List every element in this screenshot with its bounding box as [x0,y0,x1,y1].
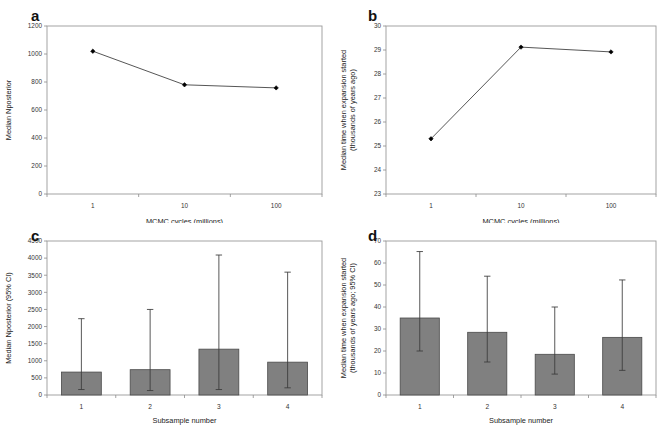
x-category-label: 4 [620,403,624,410]
y-tick-label: 24 [374,166,382,173]
x-category-label: 2 [485,403,489,410]
y-tick-label: 500 [31,374,42,381]
panel-b-plot: 2324252627282930110100MCMC cycles (milli… [334,0,668,223]
y-tick-label: 28 [374,70,382,77]
x-axis-title: Subsample number [152,416,217,425]
data-point-marker [182,83,186,87]
y-tick-label: 400 [31,134,42,141]
x-category-label: 2 [148,403,152,410]
y-tick-label: 2000 [28,323,43,330]
x-category-label: 3 [217,403,221,410]
x-category-label: 3 [553,403,557,410]
y-axis-title: Median time when expansion started [339,50,348,170]
y-tick-label: 25 [374,142,382,149]
y-tick-label: 1500 [28,340,43,347]
y-tick-label: 60 [374,259,382,266]
plot-frame [47,26,322,194]
y-axis-title-line2: (thousands of years ago; 95% CI) [348,263,357,373]
panel-a-plot: 020040060080010001200110100MCMC cycles (… [0,0,334,223]
panel-c: c 05001000150020002500300035004000450012… [0,223,334,446]
x-tick-label: 100 [606,202,617,209]
data-point-marker [609,50,613,54]
y-tick-label: 20 [374,347,382,354]
y-tick-label: 40 [374,303,382,310]
panel-d-plot: 0102030405060701234Subsample numberMedia… [334,223,668,446]
y-tick-label: 800 [31,78,42,85]
panel-a-letter: a [31,8,39,23]
y-tick-label: 1000 [28,357,43,364]
panel-c-plot: 0500100015002000250030003500400045001234… [0,223,334,446]
x-tick-label: 1 [91,202,95,209]
x-category-label: 1 [80,403,84,410]
x-tick-label: 1 [429,202,433,209]
data-point-marker [274,86,278,90]
data-series-line [431,47,611,139]
x-category-label: 4 [286,403,290,410]
y-tick-label: 1000 [28,50,43,57]
panel-b: b 2324252627282930110100MCMC cycles (mil… [334,0,668,223]
data-point-marker [91,49,95,53]
y-tick-label: 4000 [28,254,43,261]
panel-d: d 0102030405060701234Subsample numberMed… [334,223,668,446]
y-tick-label: 3500 [28,272,43,279]
x-category-label: 1 [418,403,422,410]
x-tick-label: 10 [517,202,525,209]
y-axis-title: Median Nposterior (95% CI) [4,272,13,364]
y-tick-label: 200 [31,162,42,169]
y-axis-title: Median Nposterior [4,79,13,140]
y-tick-label: 10 [374,369,382,376]
y-axis-title-line2: (thousands of years ago) [348,69,357,151]
figure-canvas: a 020040060080010001200110100MCMC cycles… [0,0,668,446]
x-tick-label: 100 [271,202,282,209]
y-tick-label: 23 [374,190,382,197]
y-tick-label: 26 [374,118,382,125]
y-tick-label: 0 [38,391,42,398]
y-tick-label: 30 [374,325,382,332]
y-axis-title: Median time when expansion started [339,258,348,378]
x-axis-title: Subsample number [489,416,554,425]
panel-b-letter: b [368,8,377,23]
panel-c-letter: c [31,228,39,243]
y-tick-label: 0 [38,190,42,197]
y-tick-label: 27 [374,94,382,101]
panel-d-letter: d [368,228,377,243]
panel-a: a 020040060080010001200110100MCMC cycles… [0,0,334,223]
y-tick-label: 29 [374,46,382,53]
y-tick-label: 0 [377,391,381,398]
x-tick-label: 10 [181,202,189,209]
y-tick-label: 2500 [28,306,43,313]
y-tick-label: 3000 [28,289,43,296]
plot-frame [386,26,656,194]
y-tick-label: 600 [31,106,42,113]
y-tick-label: 50 [374,281,382,288]
